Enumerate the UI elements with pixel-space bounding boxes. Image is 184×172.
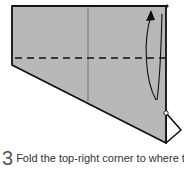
reference-dot — [164, 111, 168, 115]
step-caption: 3 Fold the top-right corner to where the — [2, 148, 184, 168]
fold-diagram — [0, 0, 184, 148]
corner-dot — [165, 4, 168, 7]
paper-shape — [12, 6, 166, 143]
step-instruction: Fold the top-right corner to where the — [16, 152, 184, 164]
small-flap — [166, 113, 181, 143]
step-number: 3 — [2, 148, 13, 168]
